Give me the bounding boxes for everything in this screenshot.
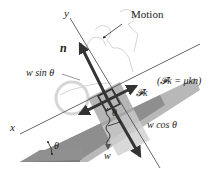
w-cos-label: w cos θ — [147, 120, 177, 130]
w-sin-label: w sin θ — [26, 68, 54, 78]
weight-label: w — [104, 151, 111, 161]
motion-label: Motion — [131, 9, 163, 20]
normal-force-label: n — [60, 42, 67, 54]
w-sin-leader — [62, 74, 80, 80]
y-axis-label: y — [64, 8, 69, 19]
block-theta-label: θ — [112, 108, 117, 118]
incline-theta-label: θ — [54, 141, 59, 151]
friction-equation-label: (𝓕k = μkn) — [157, 76, 201, 86]
normal-force-arrow — [80, 44, 108, 100]
friction-label: 𝓕k — [136, 88, 147, 98]
x-axis-label: x — [10, 122, 15, 133]
